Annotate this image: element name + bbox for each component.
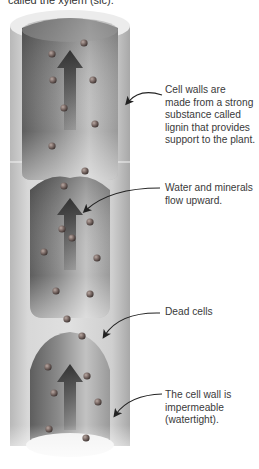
annotation-dead-cells: Dead cells <box>165 306 213 319</box>
annotation-cell-walls: Cell walls are made from a strong substa… <box>165 84 255 147</box>
cell-cavity-middle <box>30 177 110 319</box>
cell-cavity-top <box>22 18 118 180</box>
annotation-impermeable: The cell wall is impermeable (watertight… <box>165 389 231 427</box>
annotation-water-flow: Water and minerals flow upward. <box>165 182 253 207</box>
leader-cell-walls <box>128 93 162 102</box>
